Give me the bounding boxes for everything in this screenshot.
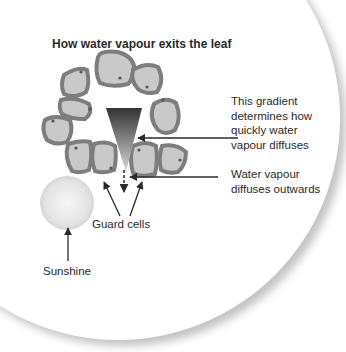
guard-cells-label: Guard cells xyxy=(92,217,150,232)
diffuses-label-line: Water vapour xyxy=(231,167,320,182)
gradient-label-line: This gradient xyxy=(231,94,312,109)
sun-icon xyxy=(40,176,94,230)
gradient-label-line: determines how xyxy=(231,109,312,124)
diffuses-label: Water vapour diffuses outwards xyxy=(231,167,320,196)
leaf-diagram: How water vapour exits the leaf This gra… xyxy=(0,0,346,352)
diagram-title: How water vapour exits the leaf xyxy=(52,37,231,51)
diffuses-label-line: diffuses outwards xyxy=(231,182,320,197)
sunshine-label: Sunshine xyxy=(43,264,91,279)
gradient-label: This gradient determines how quickly wat… xyxy=(231,94,312,152)
gradient-label-line: quickly water xyxy=(231,123,312,138)
gradient-label-line: vapour diffuses xyxy=(231,138,312,153)
